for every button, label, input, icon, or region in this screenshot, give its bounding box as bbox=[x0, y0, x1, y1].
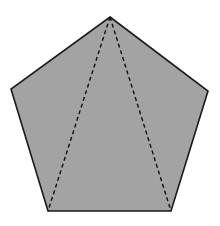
pentagon-diagram bbox=[0, 0, 220, 226]
pentagon-shape bbox=[11, 17, 208, 211]
